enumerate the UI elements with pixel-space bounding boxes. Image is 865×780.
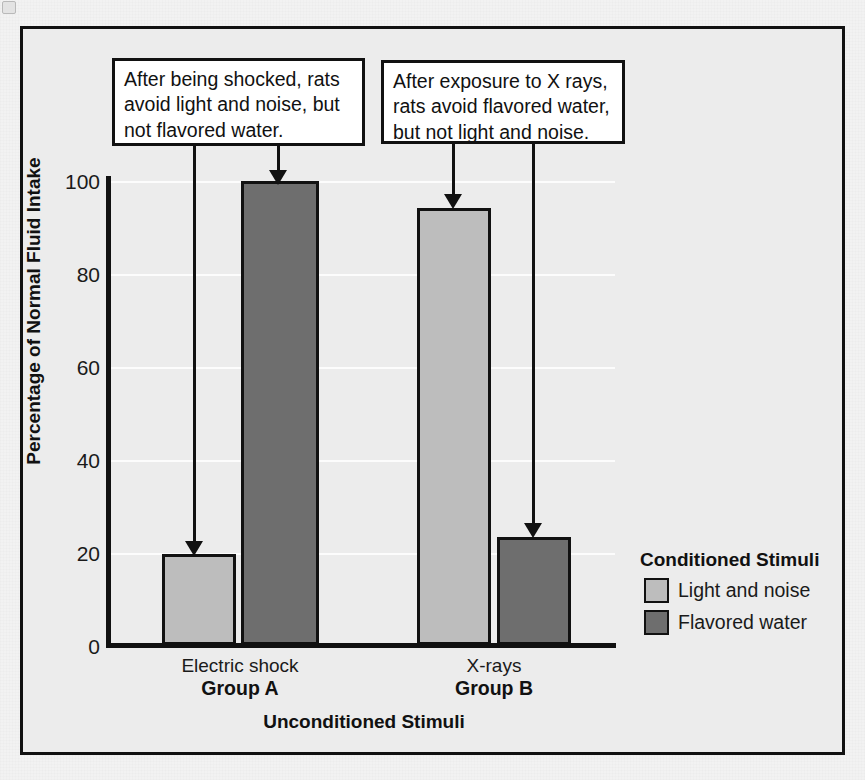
callout-group-b-line-1: After exposure to X rays, bbox=[393, 70, 608, 92]
callout-group-a-connector-left bbox=[193, 146, 196, 544]
bar-group-b-flavored-water[interactable] bbox=[497, 537, 571, 645]
legend-swatch-flavored-water bbox=[644, 610, 669, 635]
gridline-60 bbox=[111, 367, 615, 369]
x-axis-group-a-label: Group A bbox=[120, 677, 360, 700]
callout-group-b-arrow-left bbox=[444, 194, 462, 209]
callout-group-a-line-2: avoid light and noise, but bbox=[124, 93, 340, 115]
legend-item-light-and-noise[interactable]: Light and noise bbox=[644, 578, 835, 603]
y-tick-60: 60 bbox=[44, 356, 100, 380]
x-axis-title: Unconditioned Stimuli bbox=[108, 711, 620, 733]
callout-group-a-arrow-right bbox=[269, 170, 287, 185]
bar-group-a-flavored-water[interactable] bbox=[241, 181, 319, 645]
y-axis-tick-labels: 100 80 60 40 20 0 bbox=[36, 0, 100, 780]
legend-label-flavored-water: Flavored water bbox=[678, 611, 807, 634]
bar-group-a-light-and-noise[interactable] bbox=[162, 554, 236, 645]
callout-group-a-connector-right bbox=[277, 146, 280, 173]
callout-group-a-line-3: not flavored water. bbox=[124, 119, 283, 141]
legend-title: Conditioned Stimuli bbox=[640, 549, 835, 571]
callout-group-a-arrow-left bbox=[185, 541, 203, 556]
callout-group-b-line-3: but not light and noise. bbox=[393, 121, 589, 143]
y-tick-100: 100 bbox=[44, 170, 100, 194]
callout-group-b-arrow-right bbox=[524, 523, 542, 538]
scan-artifact bbox=[2, 1, 16, 14]
y-tick-80: 80 bbox=[44, 263, 100, 287]
callout-group-b-line-2: rats avoid flavored water, bbox=[393, 95, 610, 117]
legend: Conditioned Stimuli Light and noise Flav… bbox=[640, 549, 835, 642]
callout-group-b-connector-right bbox=[532, 144, 535, 525]
x-axis-line bbox=[106, 643, 616, 648]
x-axis-group-a: Electric shock Group A bbox=[120, 655, 360, 700]
x-axis-group-a-sublabel: Electric shock bbox=[120, 655, 360, 677]
legend-label-light-and-noise: Light and noise bbox=[678, 579, 810, 602]
y-axis-line bbox=[106, 176, 111, 648]
y-tick-20: 20 bbox=[44, 542, 100, 566]
callout-group-b-connector-left bbox=[452, 144, 455, 196]
legend-item-flavored-water[interactable]: Flavored water bbox=[644, 610, 835, 635]
y-axis-title: Percentage of Normal Fluid Intake bbox=[23, 101, 45, 521]
legend-swatch-light-and-noise bbox=[644, 578, 669, 603]
x-axis-group-b: X-rays Group B bbox=[374, 655, 614, 700]
x-axis-group-b-sublabel: X-rays bbox=[374, 655, 614, 677]
gridline-80 bbox=[111, 274, 615, 276]
y-tick-40: 40 bbox=[44, 449, 100, 473]
gridline-100 bbox=[111, 181, 615, 183]
callout-group-b: After exposure to X rays, rats avoid fla… bbox=[381, 60, 625, 144]
x-axis-group-b-label: Group B bbox=[374, 677, 614, 700]
y-tick-0: 0 bbox=[44, 635, 100, 659]
bar-group-b-light-and-noise[interactable] bbox=[417, 208, 491, 645]
gridline-40 bbox=[111, 460, 615, 462]
callout-group-a: After being shocked, rats avoid light an… bbox=[112, 58, 365, 146]
callout-group-a-line-1: After being shocked, rats bbox=[124, 68, 340, 90]
